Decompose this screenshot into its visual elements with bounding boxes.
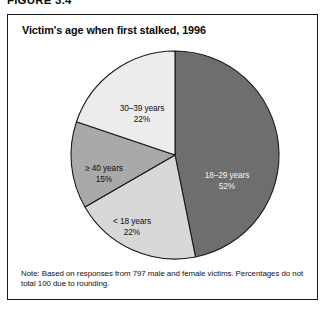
figure-number-caption: FIGURE 3.4 — [7, 0, 72, 7]
figure-panel: Victim's age when first stalked, 1996 18… — [7, 14, 318, 300]
pie-slice — [175, 51, 279, 257]
pie-chart: 18–29 years52%< 18 years22%≥ 40 years15%… — [8, 49, 317, 267]
figure-root: FIGURE 3.4 Victim's age when first stalk… — [0, 0, 325, 323]
chart-note: Note: Based on responses from 797 male a… — [21, 269, 309, 290]
pie-chart-svg: 18–29 years52%< 18 years22%≥ 40 years15%… — [8, 49, 317, 267]
pie-slice-group — [71, 51, 279, 259]
chart-title: Victim's age when first stalked, 1996 — [22, 24, 206, 36]
